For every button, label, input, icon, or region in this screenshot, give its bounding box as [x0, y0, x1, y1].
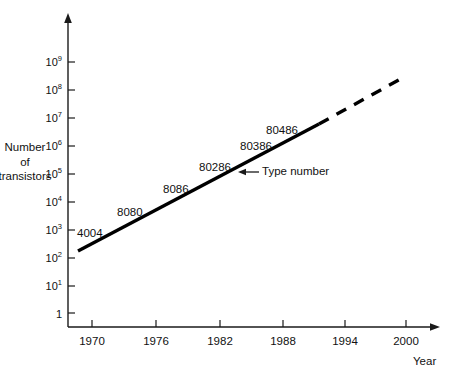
chart-plot-area — [0, 0, 467, 385]
data-line-extrapolated — [319, 76, 406, 124]
data-label-80286: 80286 — [199, 161, 231, 173]
data-label-4004: 4004 — [77, 227, 103, 239]
data-label-8086: 8086 — [163, 183, 189, 195]
xtick-label-1994: 1994 — [323, 335, 367, 347]
y-axis-title-line-2: of — [0, 155, 62, 170]
data-line-historical — [78, 124, 319, 251]
chart-figure: 109 108 107 106 105 104 103 102 101 1 Nu… — [0, 0, 467, 385]
x-axis — [68, 323, 440, 331]
ytick-label-1e9: 109 — [28, 56, 62, 68]
ytick-label-1e8: 108 — [28, 84, 62, 96]
data-label-8080: 8080 — [117, 206, 143, 218]
ytick-label-1e2: 102 — [28, 252, 62, 264]
data-label-80486: 80486 — [266, 124, 298, 136]
ytick-label-1e7: 107 — [28, 112, 62, 124]
type-number-callout-arrow — [238, 169, 259, 175]
xtick-label-2000: 2000 — [384, 335, 428, 347]
data-label-80386: 80386 — [240, 140, 272, 152]
y-axis — [64, 13, 72, 327]
x-axis-title: Year — [413, 355, 436, 367]
ytick-label-1e3: 103 — [28, 224, 62, 236]
xtick-label-1988: 1988 — [261, 335, 305, 347]
ytick-label-1e1: 101 — [28, 280, 62, 292]
ytick-label-1: 1 — [28, 308, 62, 320]
x-axis-ticks — [92, 320, 406, 327]
y-axis-title-line-1: Number — [0, 140, 62, 155]
xtick-label-1970: 1970 — [70, 335, 114, 347]
xtick-label-1976: 1976 — [134, 335, 178, 347]
y-axis-title: Number of transistors — [0, 140, 62, 184]
y-axis-ticks — [68, 62, 75, 313]
xtick-label-1982: 1982 — [198, 335, 242, 347]
ytick-label-1e4: 104 — [28, 196, 62, 208]
type-number-callout-label: Type number — [262, 165, 329, 177]
y-axis-title-line-3: transistors — [0, 169, 62, 184]
